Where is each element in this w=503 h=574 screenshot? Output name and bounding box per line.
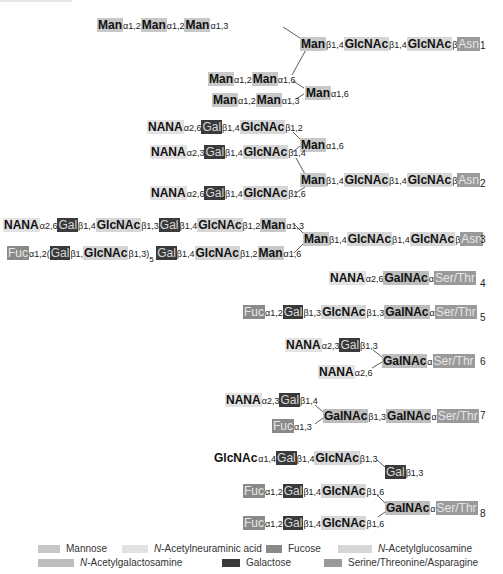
glycan-chain-row: NANAα2,3Galβ1,3 bbox=[285, 339, 378, 353]
linkage-label: β1,2 bbox=[285, 123, 303, 133]
linkage-label: β1,6 bbox=[366, 519, 384, 529]
sugar-residue-ser-thr: Ser/Thr bbox=[434, 271, 476, 285]
legend-swatch bbox=[338, 545, 372, 553]
sugar-residue-glcnac: GlcNAc bbox=[197, 218, 242, 232]
linkage-label: β1,4 bbox=[177, 249, 195, 259]
linkage-label: β1,6 bbox=[288, 189, 306, 199]
sugar-residue-gal: Gal bbox=[50, 246, 71, 260]
glycan-chain-row: Manβ1,4GlcNAcβ1,4GlcNAcβAsn bbox=[300, 174, 480, 188]
legend-label: -Acetylglucosamine bbox=[385, 543, 472, 554]
sugar-residue-man: Man bbox=[252, 72, 278, 86]
linkage-label: α1,3 bbox=[210, 21, 228, 31]
glycan-chain-row: NANAα2,6Galβ1,4GlcNAcβ1,2 bbox=[147, 121, 303, 135]
legend-swatch bbox=[324, 559, 342, 567]
sugar-residue-gal: Gal bbox=[156, 246, 177, 260]
sugar-residue-gal: Gal bbox=[57, 218, 78, 232]
structure-number: 5 bbox=[480, 312, 486, 323]
glycan-chain-row: Manα1,2Manα1,3 bbox=[212, 94, 299, 108]
glycan-chain-row: Manα1,6 bbox=[300, 139, 344, 153]
glycan-chain-row: GalNAcβ1,3GalNAcαSer/Thr bbox=[323, 410, 479, 424]
sugar-residue-glcnac: GlcNAc bbox=[407, 37, 452, 51]
sugar-residue-gal: Gal bbox=[276, 451, 297, 465]
linkage-label: α1,2 bbox=[265, 308, 283, 318]
sugar-residue-gal: Gal bbox=[201, 120, 222, 134]
structure-number: 3 bbox=[480, 234, 486, 245]
sugar-residue-gal: Gal bbox=[339, 338, 360, 352]
glycan-chain-row: Fucα1,2Galβ1,4GlcNAcβ1,6 bbox=[243, 485, 384, 499]
sugar-residue-galnac: GalNAc bbox=[323, 409, 368, 423]
linkage-label: β1,4 bbox=[225, 148, 243, 158]
linkage-label: α1,3 bbox=[294, 422, 312, 432]
sugar-residue-glcnac: GlcNAc bbox=[213, 451, 258, 465]
sugar-residue-glcnac: GlcNAc bbox=[321, 516, 366, 530]
sugar-residue-glcnac: GlcNAc bbox=[321, 305, 366, 319]
linkage-label: β1,4 bbox=[329, 235, 347, 245]
sugar-residue-glcnac: GlcNAc bbox=[347, 232, 392, 246]
linkage-label: β1,6 bbox=[366, 487, 384, 497]
sugar-residue-galnac: GalNAc bbox=[382, 354, 427, 368]
cropped-heading-fragment bbox=[0, 0, 72, 2]
linkage-label: α2,3 bbox=[322, 341, 340, 351]
linkage-label: β1,4 bbox=[180, 221, 198, 231]
glycan-chain-row: Manβ1,4GlcNAcβ1,4GlcNAcβAsn bbox=[300, 38, 480, 52]
structure-number: 8 bbox=[480, 508, 486, 519]
sugar-residue-glcnac: GlcNAc bbox=[240, 120, 285, 134]
sugar-residue-man: Man bbox=[97, 18, 123, 32]
sugar-residue-asn: Asn bbox=[457, 173, 480, 187]
linkage-label: α bbox=[430, 308, 435, 318]
sugar-residue-galnac: GalNAc bbox=[386, 409, 431, 423]
linkage-label: β1,3 bbox=[360, 454, 378, 464]
glycan-chain-row: Fucα1,2Galβ1,4GlcNAcβ1,6 bbox=[243, 517, 384, 531]
linkage-label: β1,4 bbox=[300, 396, 318, 406]
linkage-label: β1,4 bbox=[326, 40, 344, 50]
sugar-residue-glcnac: GlcNAc bbox=[344, 173, 389, 187]
structure-number: 4 bbox=[480, 278, 486, 289]
bond-line bbox=[315, 418, 323, 424]
linkage-label: α1,2 bbox=[234, 75, 252, 85]
legend-label: -Acetylneuraminic acid bbox=[161, 543, 262, 554]
linkage-label: α1,2 bbox=[123, 21, 141, 31]
sugar-residue-gal: Gal bbox=[283, 305, 304, 319]
linkage-label: α1,4 bbox=[258, 454, 276, 464]
legend-label: Fucose bbox=[288, 543, 321, 554]
sugar-residue-fuc: Fuc bbox=[243, 305, 265, 319]
bond-line bbox=[283, 27, 300, 38]
linkage-label: α bbox=[431, 412, 436, 422]
sugar-residue-fuc: Fuc bbox=[272, 419, 294, 433]
sugar-residue-glcnac: GlcNAc bbox=[96, 218, 141, 232]
linkage-label: α2,6 bbox=[184, 123, 202, 133]
sugar-residue-nana: NANA bbox=[150, 145, 187, 159]
sugar-residue-man: Man bbox=[212, 93, 238, 107]
bond-line bbox=[377, 460, 385, 467]
linkage-label: α1,2 bbox=[265, 519, 283, 529]
linkage-label: β1,4 bbox=[225, 189, 243, 199]
linkage-label: α1,6 bbox=[284, 249, 302, 259]
sugar-residue-asn: Asn bbox=[457, 37, 480, 51]
linkage-label: β1,4 bbox=[389, 40, 407, 50]
linkage-label: α1,2 bbox=[167, 21, 185, 31]
linkage-label: α1,2( bbox=[29, 249, 50, 259]
sugar-residue-gal: Gal bbox=[159, 218, 180, 232]
glycan-chain-row: NANAα2,3Galβ1,4 bbox=[225, 394, 318, 408]
structure-number: 2 bbox=[480, 178, 486, 189]
glycan-chain-row: NANAα2,6Galβ1,4GlcNAcβ1,6 bbox=[150, 187, 306, 201]
glycan-chain-row: Manα1,2Manα1,6 bbox=[208, 73, 295, 87]
linkage-label: β1,4 bbox=[303, 487, 321, 497]
sugar-residue-man: Man bbox=[300, 173, 326, 187]
sugar-residue-man: Man bbox=[303, 232, 329, 246]
linkage-label: α2,6 bbox=[355, 368, 373, 378]
sugar-residue-glcnac: GlcNAc bbox=[410, 232, 455, 246]
sugar-residue-galnac: GalNAc bbox=[385, 501, 430, 515]
sugar-residue-ser-thr: Ser/Thr bbox=[435, 305, 477, 319]
sugar-residue-man: Man bbox=[141, 18, 167, 32]
glycan-chain-row: Galβ1,3 bbox=[385, 466, 423, 480]
sugar-residue-glcnac: GlcNAc bbox=[407, 173, 452, 187]
linkage-label: α1,6 bbox=[331, 89, 349, 99]
sugar-residue-man: Man bbox=[260, 218, 286, 232]
legend-item-mannose: Mannose bbox=[38, 543, 107, 554]
sugar-residue-glcnac: GlcNAc bbox=[195, 246, 240, 260]
linkage-label: α1,6 bbox=[278, 75, 296, 85]
sugar-residue-nana: NANA bbox=[329, 271, 366, 285]
bond-line bbox=[296, 158, 305, 174]
legend-swatch bbox=[122, 545, 148, 553]
